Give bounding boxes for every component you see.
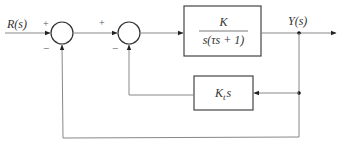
summing-junction-1 (51, 22, 73, 44)
feedback-block-label: Kts (214, 86, 232, 102)
forward-block-numerator: K (218, 15, 228, 29)
output-label: Y(s) (288, 14, 307, 28)
sum1-minus-sign: − (43, 42, 49, 54)
block-diagram: R(s) + − + − K s(τs + 1) Y(s) Kts (0, 0, 344, 145)
forward-block-denominator: s(τs + 1) (203, 33, 245, 47)
sum1-plus-sign: + (43, 18, 49, 29)
sum2-minus-sign: − (112, 42, 118, 54)
summing-junction-2 (118, 22, 140, 44)
input-label: R(s) (6, 17, 27, 31)
sum2-plus-sign: + (99, 17, 105, 28)
outer-feedback-line (62, 45, 299, 138)
